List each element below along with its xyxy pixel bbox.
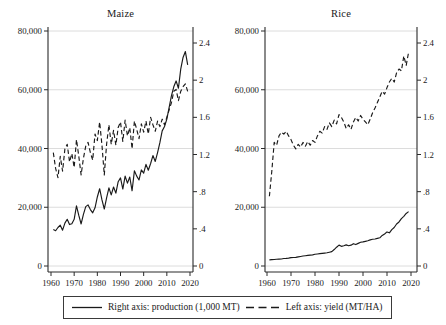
y-right-tick-label: 0: [423, 261, 428, 271]
maize-production-line: [53, 52, 187, 231]
x-tick-label: 2020: [181, 278, 199, 288]
legend-production-label: Right axis: production (1,000 MT): [108, 297, 240, 318]
maize-chart: Maize 80,00060,00040,00020,00002.421.61.…: [0, 0, 223, 295]
x-tick-label: 1990: [112, 278, 130, 288]
legend-yield-label: Left axis: yield (MT/HA): [286, 297, 383, 318]
rice-chart: Rice 80,00060,00040,00020,00002.421.61.2…: [223, 0, 446, 295]
x-tick-label: 1970: [65, 278, 83, 288]
x-tick-label: 1980: [89, 278, 107, 288]
y-right-tick-label: 1.2: [199, 150, 210, 160]
y-left-tick-label: 0: [255, 261, 260, 271]
y-right-tick-label: 2: [423, 75, 427, 85]
x-tick-label: 1990: [330, 278, 348, 288]
x-tick-label: 1980: [306, 278, 324, 288]
legend: Right axis: production (1,000 MT) Left a…: [63, 296, 392, 319]
y-right-tick-label: 1.6: [423, 112, 435, 122]
solid-line-sample-icon: [72, 303, 102, 312]
y-right-tick-label: 0: [199, 261, 204, 271]
y-right-tick-label: 1.2: [423, 150, 434, 160]
y-right-tick-label: .4: [199, 224, 206, 234]
x-tick-label: 1960: [258, 278, 276, 288]
rice-yield-line: [269, 52, 408, 196]
y-right-tick-label: 2.4: [199, 38, 211, 48]
y-left-tick-label: 80,000: [18, 26, 43, 36]
y-left-tick-label: 20,000: [235, 202, 260, 212]
rice-production-line: [269, 212, 408, 260]
y-right-tick-label: .4: [423, 224, 430, 234]
maize-yield-line: [53, 84, 187, 178]
dashed-line-sample-icon: [246, 303, 280, 312]
x-tick-label: 2000: [354, 278, 372, 288]
x-tick-label: 1970: [282, 278, 300, 288]
rice-plot-area: 80,00060,00040,00020,00002.421.61.2.8.40…: [223, 0, 446, 295]
x-tick-label: 1960: [42, 278, 60, 288]
y-left-tick-label: 60,000: [235, 85, 260, 95]
y-right-tick-label: .8: [199, 187, 206, 197]
y-left-tick-label: 20,000: [18, 202, 43, 212]
y-left-tick-label: 40,000: [235, 144, 260, 154]
x-tick-label: 2010: [378, 278, 396, 288]
maize-plot-area: 80,00060,00040,00020,00002.421.61.2.8.40…: [0, 0, 223, 295]
y-left-tick-label: 0: [38, 261, 43, 271]
x-tick-label: 2010: [158, 278, 176, 288]
y-left-tick-label: 80,000: [235, 26, 260, 36]
y-right-tick-label: 2.4: [423, 38, 435, 48]
y-right-tick-label: .8: [423, 187, 430, 197]
y-left-tick-label: 60,000: [18, 85, 43, 95]
y-right-tick-label: 1.6: [199, 112, 211, 122]
x-tick-label: 2020: [402, 278, 420, 288]
maize-rice-production-yield-figure: Maize 80,00060,00040,00020,00002.421.61.…: [0, 0, 446, 325]
y-left-tick-label: 40,000: [18, 144, 43, 154]
x-tick-label: 2000: [135, 278, 153, 288]
y-right-tick-label: 2: [199, 75, 203, 85]
